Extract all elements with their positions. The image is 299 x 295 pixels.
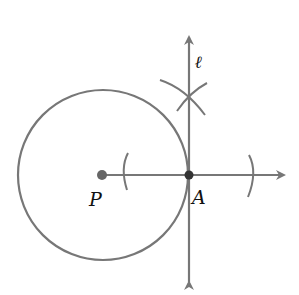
compass-arc-upper-1 <box>160 80 205 115</box>
construction-figure <box>0 0 299 295</box>
compass-arc-upper-2 <box>177 83 207 111</box>
compass-arc-left <box>124 153 128 190</box>
label-center-p: P <box>89 188 102 210</box>
label-point-a: A <box>192 186 206 208</box>
diagram-canvas: ℓ P A <box>0 0 299 295</box>
point-p <box>97 170 107 180</box>
point-a <box>185 171 194 180</box>
label-line-l: ℓ <box>195 52 202 73</box>
